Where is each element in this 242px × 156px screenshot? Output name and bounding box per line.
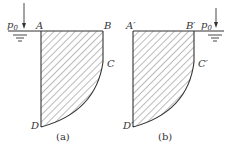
label-c: C	[107, 58, 115, 69]
label-d: D	[30, 120, 39, 131]
water-surface-icon	[13, 35, 27, 41]
figure: p0 A B C D (a) p0 A′ B′ C′ D′ (b)	[0, 0, 242, 156]
label-d-prime: D′	[122, 120, 134, 131]
label-b: B	[103, 20, 111, 31]
label-a: A	[35, 20, 43, 31]
pressure-arrow-icon	[214, 8, 218, 28]
pressure-label: p0	[7, 19, 18, 32]
water-surface-icon	[208, 35, 222, 41]
label-b-prime: B′	[185, 20, 196, 31]
panel-b: p0 A′ B′ C′ D′ (b)	[122, 8, 224, 142]
caption-b: (b)	[158, 131, 172, 142]
label-a-prime: A′	[125, 20, 136, 31]
hatched-region	[41, 31, 103, 127]
panel-a: p0 A B C D (a)	[7, 3, 115, 142]
label-c-prime: C′	[198, 58, 209, 69]
caption-a: (a)	[56, 131, 70, 142]
hatched-region	[133, 31, 194, 127]
pressure-label: p0	[201, 19, 212, 32]
pressure-arrow-icon	[22, 3, 26, 29]
